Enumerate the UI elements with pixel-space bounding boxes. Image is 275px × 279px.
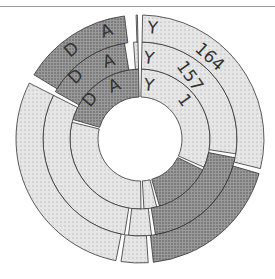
day-164-segment-light <box>136 15 138 42</box>
seasonal-ring-diagram: D A Y 164 D A Y 157 D A Y 1 <box>0 0 275 279</box>
day-164-segment-light <box>121 235 148 263</box>
rings-group <box>16 15 264 263</box>
day-157-segment-light <box>129 209 152 236</box>
day-157-segment-light <box>134 42 139 69</box>
